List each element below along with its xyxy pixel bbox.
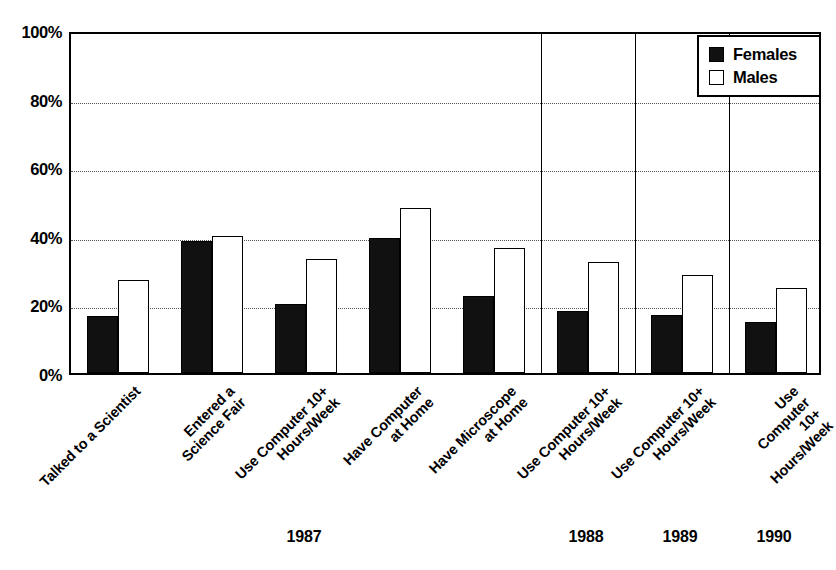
legend-swatch-females-icon [709, 47, 724, 62]
y-axis-tick-40pct: 40% [0, 228, 62, 247]
group-separator-1989 [635, 34, 636, 373]
legend-label-females: Females [733, 45, 797, 64]
year-label-1989: 1989 [663, 528, 698, 546]
bar-females-5 [557, 311, 588, 373]
legend: Females Males [697, 35, 821, 97]
bar-males-6 [682, 275, 713, 373]
gridline-60 [71, 171, 819, 172]
legend-swatch-males-icon [709, 70, 724, 85]
category-label-7: Use Computer 10+ Hours/Week [732, 383, 836, 487]
group-separator-1988 [541, 34, 542, 373]
bar-females-0 [87, 316, 118, 373]
bar-females-1 [181, 241, 212, 373]
bar-females-7 [745, 322, 776, 373]
category-label-3: Have Computer at Home [340, 383, 437, 480]
bar-females-4 [463, 296, 494, 373]
y-axis-tick-80pct: 80% [0, 91, 62, 110]
category-label-1: Entered a Science Fair [167, 383, 249, 465]
year-label-1990: 1990 [757, 528, 792, 546]
category-label-6: Use Computer 10+ Hours/Week [608, 383, 719, 494]
bar-males-2 [306, 259, 337, 373]
bar-males-4 [494, 248, 525, 373]
category-label-2: Use Computer 10+ Hours/Week [232, 383, 343, 494]
bar-females-2 [275, 304, 306, 373]
category-label-5: Use Computer 10+ Hours/Week [514, 383, 625, 494]
y-axis-tick-60pct: 60% [0, 160, 62, 179]
bar-females-6 [651, 315, 682, 373]
bar-females-3 [369, 238, 400, 373]
bar-males-1 [212, 236, 243, 373]
legend-item-males: Males [709, 66, 819, 89]
bar-males-0 [118, 280, 149, 373]
y-axis-tick-20pct: 20% [0, 297, 62, 316]
year-label-1988: 1988 [569, 528, 604, 546]
legend-item-females: Females [709, 43, 819, 66]
y-axis-tick-0pct: 0% [0, 366, 62, 385]
year-label-1987: 1987 [287, 528, 322, 546]
bar-males-5 [588, 262, 619, 373]
legend-label-males: Males [733, 68, 777, 87]
bar-males-7 [776, 288, 807, 373]
gridline-80 [71, 103, 819, 104]
y-axis-tick-100pct: 100% [0, 23, 62, 42]
bar-males-3 [400, 208, 431, 373]
category-label-0: Talked to a Scientist [37, 383, 144, 490]
